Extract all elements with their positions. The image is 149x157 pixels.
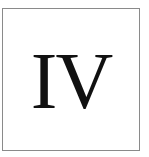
roman-numeral: IV [3,9,139,150]
numeral-card: IV [2,8,140,151]
